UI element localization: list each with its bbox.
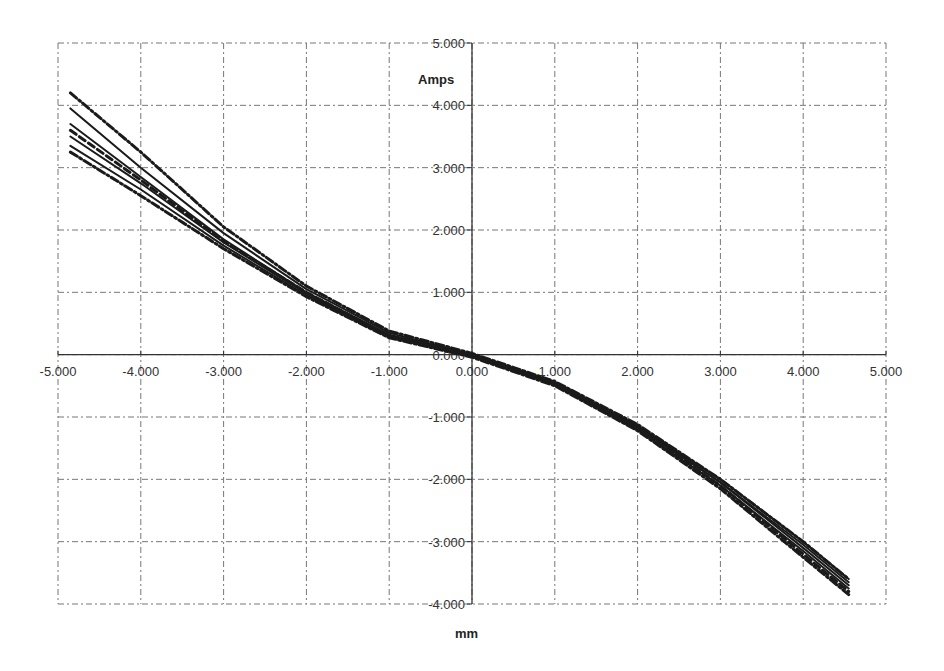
x-tick-label: 4.000 bbox=[787, 364, 820, 379]
x-tick-label: -2.000 bbox=[288, 364, 325, 379]
y-axis-tick-labels: 5.0004.0003.0002.0001.0000.000-1.000-2.0… bbox=[428, 36, 465, 612]
y-tick-label: 4.000 bbox=[432, 98, 465, 113]
y-tick-label: -4.000 bbox=[428, 597, 465, 612]
y-tick-label: -1.000 bbox=[428, 410, 465, 425]
x-tick-label: 2.000 bbox=[621, 364, 654, 379]
y-tick-label: -3.000 bbox=[428, 535, 465, 550]
series-line-run-1 bbox=[70, 108, 848, 582]
y-tick-label: 1.000 bbox=[432, 285, 465, 300]
x-tick-label: 3.000 bbox=[704, 364, 737, 379]
x-tick-label: 5.000 bbox=[870, 364, 903, 379]
y-tick-label: 2.000 bbox=[432, 223, 465, 238]
x-axis-tick-labels: -5.000-4.000-3.000-2.000-1.0000.0001.000… bbox=[40, 364, 903, 379]
chart: -5.000-4.000-3.000-2.000-1.0000.0001.000… bbox=[0, 0, 944, 671]
x-tick-label: 0.000 bbox=[456, 364, 489, 379]
x-tick-label: -5.000 bbox=[40, 364, 77, 379]
axes bbox=[58, 43, 886, 604]
x-tick-label: -4.000 bbox=[122, 364, 159, 379]
y-tick-label: -2.000 bbox=[428, 472, 465, 487]
y-tick-label: 3.000 bbox=[432, 161, 465, 176]
x-tick-label: -3.000 bbox=[205, 364, 242, 379]
y-tick-label: 5.000 bbox=[432, 36, 465, 51]
x-axis-title: mm bbox=[455, 626, 478, 641]
x-tick-label: -1.000 bbox=[371, 364, 408, 379]
y-axis-title: Amps bbox=[418, 72, 454, 87]
